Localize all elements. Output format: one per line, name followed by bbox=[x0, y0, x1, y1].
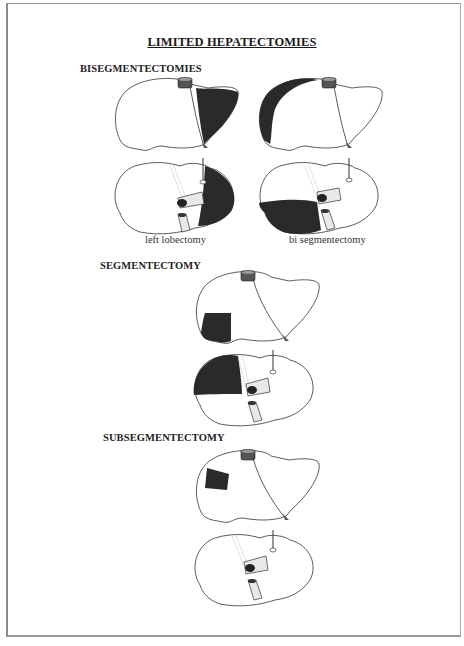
caption-bi-segmentectomy: bi segmentectomy bbox=[289, 234, 366, 245]
liver-posterior-view-bi-segmentectomy bbox=[255, 158, 390, 238]
liver-anterior-view-left-lobectomy bbox=[112, 78, 242, 153]
section-heading-segmentectomy: SEGMENTECTOMY bbox=[100, 260, 201, 271]
page-title: LIMITED HEPATECTOMIES bbox=[0, 35, 464, 50]
liver-posterior-view-segmentectomy bbox=[190, 350, 325, 430]
liver-anterior-view-segmentectomy bbox=[193, 271, 323, 346]
section-heading-subsegmentectomy: SUBSEGMENTECTOMY bbox=[103, 432, 225, 443]
liver-anterior-view-bi-segmentectomy bbox=[256, 78, 386, 153]
liver-posterior-view-left-lobectomy bbox=[110, 158, 245, 238]
section-heading-bisegmentectomies: BISEGMENTECTOMIES bbox=[80, 63, 202, 74]
caption-left-lobectomy: left lobectomy bbox=[145, 234, 206, 245]
liver-posterior-view-subsegmentectomy bbox=[190, 530, 325, 610]
liver-anterior-view-subsegmentectomy bbox=[193, 450, 323, 525]
